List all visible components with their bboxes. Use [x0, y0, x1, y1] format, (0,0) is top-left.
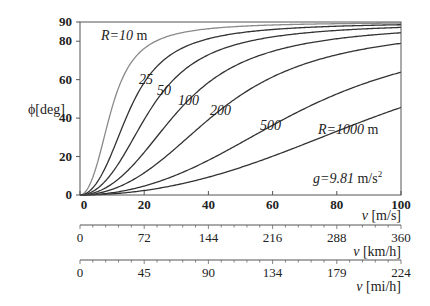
- secondary-tick-label: 45: [138, 265, 151, 280]
- gravity-annotation: g=9.81 m/s2: [313, 169, 382, 186]
- curve-label-r200: 200: [210, 103, 231, 118]
- secondary-tick-label: 0: [77, 265, 84, 280]
- secondary-tick-label: 144: [199, 230, 219, 245]
- curve-label-r10: R=10 m: [100, 28, 148, 43]
- secondary-tick-label: 134: [263, 265, 283, 280]
- plot-frame: [80, 22, 401, 195]
- secondary-tick-label: 224: [391, 265, 411, 280]
- chart-svg: 02040608090 020406080100 072144216288360…: [0, 0, 430, 306]
- mih-axis: 04590134179224: [77, 260, 412, 280]
- secondary-tick-label: 288: [327, 230, 347, 245]
- secondary-tick-label: 72: [138, 230, 151, 245]
- curve-label-r1000: R=1000 m: [317, 122, 379, 137]
- secondary-tick-label: 0: [77, 230, 84, 245]
- curve-label-r25: 25: [139, 72, 153, 87]
- secondary-tick-label: 90: [202, 265, 215, 280]
- x-tick-label: 40: [202, 197, 215, 212]
- secondary-tick-label: 360: [391, 230, 411, 245]
- y-tick-label: 90: [59, 14, 72, 29]
- curve-label-r500: 500: [260, 118, 281, 133]
- x-tick-label: 80: [330, 197, 343, 212]
- secondary-tick-label: 216: [263, 230, 283, 245]
- x-tick-label: 60: [266, 197, 279, 212]
- curve-label-r100: 100: [178, 93, 199, 108]
- x-axis-label-mih: v [mi/h]: [356, 279, 401, 294]
- curve-r10: [80, 23, 401, 195]
- x-tick-label: 0: [81, 197, 88, 212]
- curve-label-r50: 50: [157, 83, 171, 98]
- x-tick-label: 20: [138, 197, 151, 212]
- y-tick-label: 0: [66, 187, 73, 202]
- kmh-axis: 072144216288360: [77, 225, 411, 245]
- y-tick-label: 20: [59, 149, 72, 164]
- x-axis-label-ms: v [m/s]: [362, 208, 401, 223]
- curves: [80, 23, 401, 195]
- y-axis-label: ϕ[deg]: [28, 102, 65, 117]
- y-tick-label: 80: [59, 33, 72, 48]
- x-axis-label-kmh: v [km/h]: [353, 244, 401, 259]
- secondary-tick-label: 179: [327, 265, 347, 280]
- y-tick-label: 60: [59, 72, 72, 87]
